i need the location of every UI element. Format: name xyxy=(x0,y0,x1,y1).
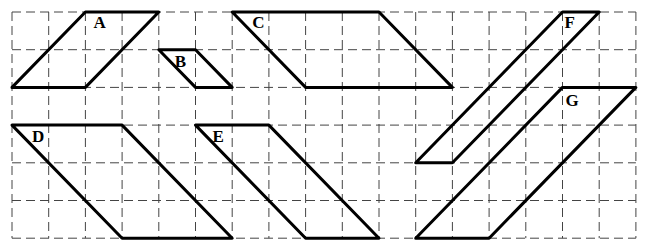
parallelogram-e: E xyxy=(196,125,380,238)
shape-label: D xyxy=(32,127,44,146)
shape-label: E xyxy=(213,127,224,146)
shape-label: C xyxy=(252,13,264,32)
shape-label: G xyxy=(566,91,579,110)
parallelogram-grid-diagram: ABCDEFG xyxy=(0,0,646,246)
shape-label: F xyxy=(565,13,575,32)
shape-label: A xyxy=(93,13,106,32)
shape-label: B xyxy=(175,52,186,71)
